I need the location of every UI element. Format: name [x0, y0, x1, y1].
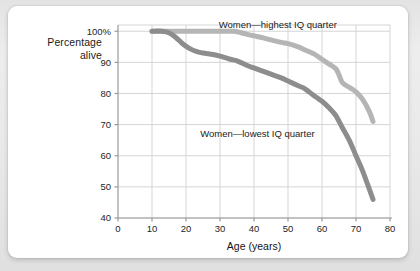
- y-tick-label: 100%: [87, 26, 112, 37]
- annotation-lowest-iq: Women—lowest IQ quarter: [200, 128, 314, 139]
- y-tick-label: 90: [100, 57, 111, 68]
- chart-card: Percentagealive 405060708090100% 0102030…: [8, 6, 408, 258]
- y-tick-label: 80: [100, 88, 111, 99]
- x-tick-label: 50: [283, 223, 294, 234]
- x-tick-label: 30: [215, 223, 226, 234]
- x-tick-label: 70: [351, 223, 362, 234]
- y-tick-labels: 405060708090100%: [87, 26, 112, 224]
- y-tick-label: 40: [100, 212, 111, 223]
- x-tick-label: 80: [385, 223, 396, 234]
- y-tick-label: 70: [100, 119, 111, 130]
- y-tick-label: 50: [100, 181, 111, 192]
- x-tick-label: 40: [249, 223, 260, 234]
- x-tick-label: 60: [317, 223, 328, 234]
- annotation-highest-iq: Women—highest IQ quarter: [219, 19, 337, 30]
- x-tick-label: 0: [115, 223, 120, 234]
- x-tick-label: 10: [147, 223, 158, 234]
- line-chart-svg: 405060708090100% 01020304050607080 Age (…: [8, 6, 408, 258]
- chart-container: Percentagealive 405060708090100% 0102030…: [8, 6, 408, 258]
- x-tick-labels: 01020304050607080: [115, 223, 395, 234]
- y-tick-label: 60: [100, 150, 111, 161]
- x-tick-label: 20: [181, 223, 192, 234]
- x-axis-title: Age (years): [227, 240, 281, 252]
